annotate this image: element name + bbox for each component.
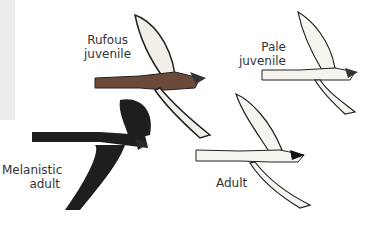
adult-hawk bbox=[196, 94, 310, 208]
label-line: Rufous bbox=[84, 33, 128, 47]
label-line: adult bbox=[2, 177, 60, 191]
label-pale-juvenile: Pale juvenile bbox=[236, 40, 286, 68]
label-line: Melanistic bbox=[2, 163, 60, 177]
melanistic-adult-hawk bbox=[32, 99, 151, 210]
label-rufous-juvenile: Rufous juvenile bbox=[84, 33, 128, 61]
label-adult: Adult bbox=[216, 176, 247, 190]
label-line: juvenile bbox=[84, 47, 128, 61]
label-line: Pale bbox=[236, 40, 286, 54]
label-line: juvenile bbox=[236, 54, 286, 68]
label-melanistic-adult: Melanistic adult bbox=[2, 163, 60, 191]
